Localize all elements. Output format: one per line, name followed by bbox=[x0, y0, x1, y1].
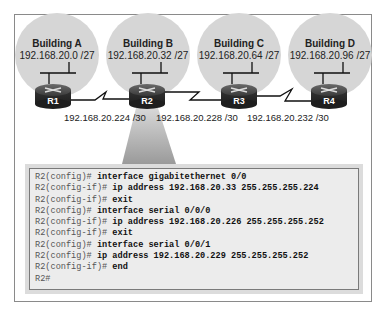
cli-line: R2(config)# interface gigabitethernet 0/… bbox=[35, 172, 353, 183]
building-name: Building D bbox=[280, 38, 380, 50]
cli-command: ip address 192.168.20.229 255.255.255.25… bbox=[97, 251, 308, 261]
cli-command: ip address 192.168.20.226 255.255.255.25… bbox=[112, 217, 323, 227]
cli-prompt: R2(config)# bbox=[35, 206, 97, 216]
cli-line: R2(config)# interface serial 0/0/0 bbox=[35, 206, 353, 217]
link-r2-r3-subnet: 192.168.20.228 /30 bbox=[156, 112, 238, 123]
cli-line: R2(config-if)# exit bbox=[35, 195, 353, 206]
cli-command: exit bbox=[112, 228, 133, 238]
router-r4-label: R4 bbox=[309, 96, 349, 106]
cli-prompt: R2(config-if)# bbox=[35, 183, 112, 193]
building-name: Building B bbox=[98, 38, 198, 50]
building-subnet: 192.168.20.96 /27 bbox=[280, 50, 380, 62]
router-r1-label: R1 bbox=[33, 96, 73, 106]
cli-prompt: R2(config)# bbox=[35, 251, 97, 261]
building-name: Building C bbox=[189, 38, 289, 50]
building-b-label: Building B 192.168.20.32 /27 bbox=[98, 38, 198, 62]
cli-line: R2(config-if)# exit bbox=[35, 228, 353, 239]
cli-line: R2(config-if)# ip address 192.168.20.33 … bbox=[35, 183, 353, 194]
cli-callout: R2(config)# interface gigabitethernet 0/… bbox=[25, 164, 363, 294]
cli-terminal: R2(config)# interface gigabitethernet 0/… bbox=[29, 168, 359, 290]
cli-prompt: R2# bbox=[35, 274, 50, 284]
router-r2-label: R2 bbox=[127, 96, 167, 106]
building-d-label: Building D 192.168.20.96 /27 bbox=[280, 38, 380, 62]
cli-command: interface serial 0/0/0 bbox=[97, 206, 210, 216]
building-subnet: 192.168.20.0 /27 bbox=[7, 50, 107, 62]
router-r3-label: R3 bbox=[219, 96, 259, 106]
building-subnet: 192.168.20.64 /27 bbox=[189, 50, 289, 62]
cli-line: R2(config)# interface serial 0/0/1 bbox=[35, 240, 353, 251]
cli-line: R2(config-if)# end bbox=[35, 262, 353, 273]
cli-prompt: R2(config-if)# bbox=[35, 228, 112, 238]
cli-command: interface serial 0/0/1 bbox=[97, 240, 210, 250]
link-r3-r4-subnet: 192.168.20.232 /30 bbox=[247, 112, 329, 123]
cli-line: R2(config)# ip address 192.168.20.229 25… bbox=[35, 251, 353, 262]
network-topology bbox=[0, 0, 386, 165]
cli-line: R2# bbox=[35, 274, 353, 285]
building-subnet: 192.168.20.32 /27 bbox=[98, 50, 198, 62]
cli-line: R2(config-if)# ip address 192.168.20.226… bbox=[35, 217, 353, 228]
cli-command: ip address 192.168.20.33 255.255.255.224 bbox=[112, 183, 318, 193]
building-a-label: Building A 192.168.20.0 /27 bbox=[7, 38, 107, 62]
link-r1-r2-subnet: 192.168.20.224 /30 bbox=[64, 112, 146, 123]
cli-prompt: R2(config)# bbox=[35, 172, 97, 182]
cli-prompt: R2(config-if)# bbox=[35, 195, 112, 205]
building-c-label: Building C 192.168.20.64 /27 bbox=[189, 38, 289, 62]
cli-prompt: R2(config-if)# bbox=[35, 262, 112, 272]
cli-command: end bbox=[112, 262, 127, 272]
serial-link-r3-r4 bbox=[256, 89, 314, 101]
building-name: Building A bbox=[7, 38, 107, 50]
serial-link-r1-r2 bbox=[70, 92, 130, 100]
cli-prompt: R2(config)# bbox=[35, 240, 97, 250]
cli-command: exit bbox=[112, 195, 133, 205]
serial-link-r2-r3 bbox=[164, 92, 225, 100]
cli-command: interface gigabitethernet 0/0 bbox=[97, 172, 247, 182]
cli-prompt: R2(config-if)# bbox=[35, 217, 112, 227]
